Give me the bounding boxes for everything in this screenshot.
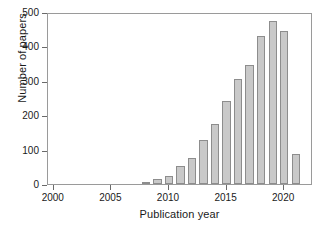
y-tick-label: 400 [0,42,39,52]
y-tick-mark [42,185,47,186]
bar [257,36,265,184]
bar [188,158,196,184]
y-axis-title: Number of papers [16,0,28,128]
bar [211,124,219,184]
x-tick-mark [53,185,54,190]
bar [234,79,242,184]
x-tick-label: 2000 [33,192,73,203]
bar [269,21,277,184]
x-tick-label: 2005 [90,192,130,203]
bar [153,179,161,184]
bar-chart-figure: Number of papers 0100200300400500 200020… [0,0,324,228]
y-tick-label: 200 [0,111,39,121]
bar [222,101,230,184]
x-tick-mark [168,185,169,190]
bar [142,182,150,184]
y-tick-mark [42,47,47,48]
bar [165,176,173,184]
x-axis-title: Publication year [47,208,312,220]
y-tick-mark [42,116,47,117]
x-tick-label: 2010 [148,192,188,203]
bar [176,166,184,184]
y-tick-mark [42,13,47,14]
plot-area [48,14,311,184]
x-tick-mark [283,185,284,190]
y-tick-mark [42,151,47,152]
y-tick-label: 300 [0,77,39,87]
x-tick-label: 2015 [206,192,246,203]
y-tick-label: 500 [0,8,39,18]
bar [245,65,253,184]
y-tick-label: 100 [0,146,39,156]
y-tick-mark [42,82,47,83]
y-tick-label: 0 [0,180,39,190]
bar [292,154,300,184]
x-tick-mark [226,185,227,190]
x-tick-mark [110,185,111,190]
plot-frame [47,13,312,185]
bar [280,31,288,184]
x-tick-label: 2020 [263,192,303,203]
bar [199,140,207,184]
